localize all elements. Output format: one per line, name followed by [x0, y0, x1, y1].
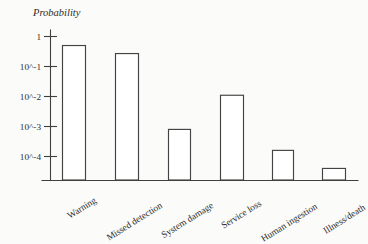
y-axis-tick-labels: 1 10^-1 10^-2 10^-3 10^-4: [20, 32, 42, 162]
bar-system-damage: [169, 129, 191, 180]
y-tick-label-3: 10^-2: [20, 92, 42, 102]
y-tick-label-1: 1: [36, 32, 41, 42]
x-tick-label-system-damage: System damage: [160, 200, 215, 240]
bar-missed-detection: [116, 54, 139, 180]
y-tick-label-4: 10^-3: [20, 122, 42, 132]
x-tick-label-warning: Warning: [66, 195, 99, 221]
chart-figure: Probability 1 10^-1 10^-2 10^-3 10^-4: [0, 0, 368, 244]
x-tick-label-human-ingestion: Human ingestion: [259, 201, 319, 244]
bar-series: [63, 46, 346, 180]
bar-warning: [63, 46, 86, 180]
bar-human-ingestion: [273, 150, 294, 180]
bar-service-loss: [221, 95, 244, 180]
x-tick-label-illness-death: Illness/death: [322, 202, 368, 236]
x-tick-label-service-loss: Service loss: [220, 198, 264, 231]
y-axis-title: Probability: [32, 7, 81, 18]
x-axis-tick-labels: Warning Missed detection System damage S…: [66, 195, 368, 244]
probability-bar-chart: Probability 1 10^-1 10^-2 10^-3 10^-4: [0, 0, 368, 244]
x-tick-label-missed-detection: Missed detection: [105, 200, 165, 242]
axes: [42, 30, 358, 181]
y-tick-label-5: 10^-4: [20, 152, 42, 162]
bar-illness-death: [323, 168, 346, 180]
y-tick-label-2: 10^-1: [20, 62, 42, 72]
